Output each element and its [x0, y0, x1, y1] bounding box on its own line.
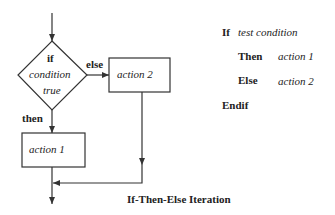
pseudo-if-keyword: If — [222, 27, 230, 38]
if-then-else-diagram: if condition true else then action 2 act… — [0, 0, 335, 215]
pseudo-if-text: test condition — [238, 27, 298, 38]
merge-line — [53, 165, 142, 183]
diamond-if-label: if — [47, 53, 54, 64]
action2-label: action 2 — [117, 69, 153, 80]
pseudo-else-text: action 2 — [278, 76, 314, 87]
pseudo-endif-keyword: Endif — [222, 100, 248, 111]
else-label: else — [86, 59, 103, 70]
diagram-caption: If-Then-Else Iteration — [127, 194, 231, 205]
diamond-condition-label: condition — [29, 69, 71, 80]
action1-label: action 1 — [29, 144, 65, 155]
pseudo-then-keyword: Then — [238, 51, 262, 62]
diamond-true-label: true — [43, 85, 61, 96]
pseudo-else-keyword: Else — [238, 75, 258, 86]
pseudo-then-text: action 1 — [278, 51, 314, 62]
then-label: then — [22, 113, 43, 124]
